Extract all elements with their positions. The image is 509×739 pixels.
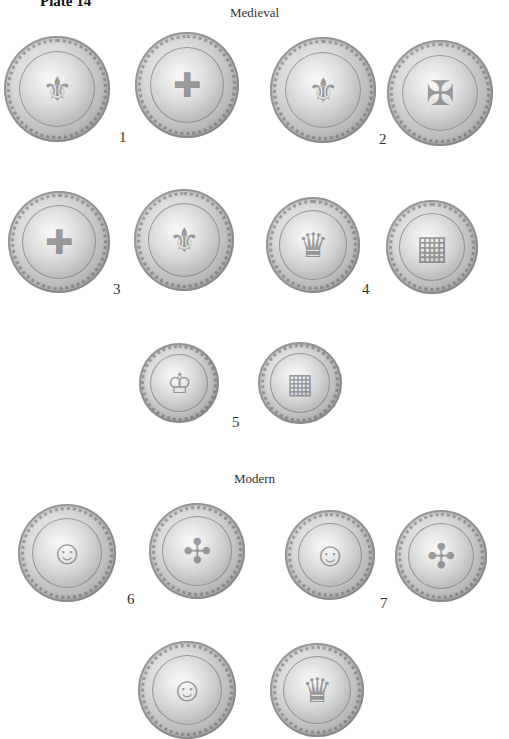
fleur-de-lis-icon: ⚜ <box>270 37 376 143</box>
cross-icon: ✠ <box>387 40 493 146</box>
arms-icon: ▦ <box>258 342 342 424</box>
coin-1-reverse: ✚ <box>135 32 239 138</box>
coin-7-obverse: ☺ <box>285 510 375 600</box>
coin-7-reverse: ✣ <box>395 510 487 602</box>
shield-icon: ⚜ <box>4 36 110 142</box>
portrait-icon: ☺ <box>138 641 236 739</box>
crown-icon: ♛ <box>270 643 364 737</box>
coin-6-reverse: ✣ <box>149 503 245 599</box>
cross-icon: ✚ <box>135 32 239 138</box>
coin-number-3: 3 <box>113 281 121 298</box>
eagle-shield-icon: ♛ <box>266 197 360 293</box>
coin-3-reverse: ⚜ <box>134 189 234 291</box>
section-title-modern: Modern <box>0 471 509 487</box>
coin-2-reverse: ✠ <box>387 40 493 146</box>
portrait-icon: ☺ <box>18 504 116 602</box>
portrait-icon: ☺ <box>285 510 375 600</box>
coin-number-6: 6 <box>127 591 135 608</box>
coin-number-1: 1 <box>119 129 127 146</box>
coin-number-2: 2 <box>379 131 387 148</box>
coin-number-7: 7 <box>380 595 388 612</box>
crowned-l-cross-icon: ✣ <box>395 510 487 602</box>
coin-2-obverse: ⚜ <box>270 37 376 143</box>
coin-3-obverse: ✚ <box>8 191 110 293</box>
coin-number-4: 4 <box>362 281 370 298</box>
coin-5-reverse: ▦ <box>258 342 342 424</box>
section-title-medieval: Medieval <box>0 5 509 21</box>
coin-4-reverse: ▦ <box>386 200 478 294</box>
coin-8-reverse: ♛ <box>270 643 364 737</box>
coin-8-obverse: ☺ <box>138 641 236 739</box>
shield-icon: ✚ <box>8 191 110 293</box>
coin-4-obverse: ♛ <box>266 197 360 293</box>
coin-6-obverse: ☺ <box>18 504 116 602</box>
coin-1-obverse: ⚜ <box>4 36 110 142</box>
fleur-de-lis-icon: ⚜ <box>134 189 234 291</box>
coin-number-5: 5 <box>232 414 240 431</box>
arms-icon: ▦ <box>386 200 478 294</box>
seated-figure-icon: ♔ <box>139 343 219 423</box>
coin-5-obverse: ♔ <box>139 343 219 423</box>
crowned-l-cross-icon: ✣ <box>149 503 245 599</box>
